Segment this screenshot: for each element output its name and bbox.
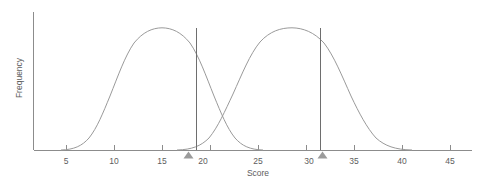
x-axis-tick-labels: 5 10 15 20 25 30 35 40 45 [64, 156, 455, 166]
chart-container: 5 10 15 20 25 30 35 40 45 Score Frequenc… [0, 0, 485, 180]
x-tick-label-35: 35 [349, 156, 359, 166]
distribution-curve-1 [61, 28, 263, 150]
x-tick-label-30: 30 [304, 156, 314, 166]
y-axis-title: Frequency [14, 57, 24, 98]
x-tick-label-45: 45 [445, 156, 455, 166]
marker-triangle-2-icon [318, 152, 328, 159]
x-tick-label-20: 20 [198, 156, 208, 166]
x-tick-label-15: 15 [157, 156, 167, 166]
distribution-chart: 5 10 15 20 25 30 35 40 45 Score Frequenc… [0, 0, 485, 180]
x-tick-label-10: 10 [109, 156, 119, 166]
distribution-curve-2 [177, 28, 412, 150]
x-axis-title: Score [247, 168, 269, 178]
marker-triangle-1-icon [184, 152, 194, 159]
x-tick-label-25: 25 [253, 156, 263, 166]
x-tick-label-5: 5 [64, 156, 69, 166]
x-tick-label-40: 40 [397, 156, 407, 166]
